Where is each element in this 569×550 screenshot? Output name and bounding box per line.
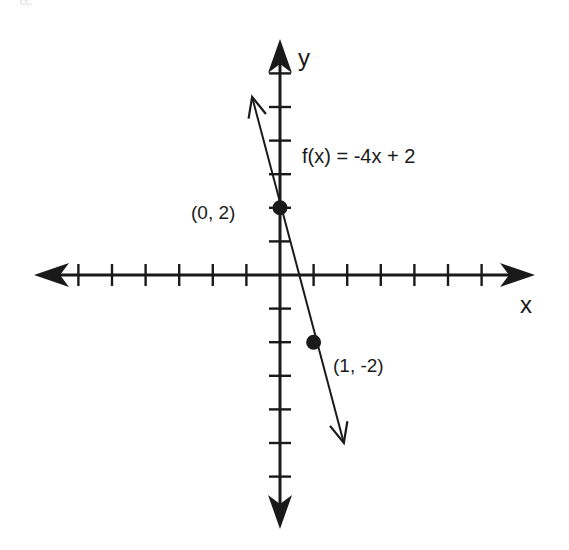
equation-label: f(x) = -4x + 2 xyxy=(302,146,415,166)
y-axis-label: y xyxy=(298,46,310,70)
coordinate-plane xyxy=(0,0,569,550)
x-axis-label: x xyxy=(520,293,532,317)
point-label-0-2: (0, 2) xyxy=(191,203,235,222)
axes xyxy=(34,39,535,529)
corner-text: cc. xyxy=(20,0,33,7)
data-point xyxy=(273,200,288,215)
point-label-1-neg2: (1, -2) xyxy=(333,356,384,375)
data-point xyxy=(306,335,321,350)
